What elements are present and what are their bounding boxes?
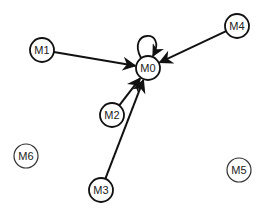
node-m1: M1	[30, 38, 54, 62]
node-m3: M3	[89, 178, 113, 202]
node-m5: M5	[227, 158, 251, 182]
node-label: M2	[104, 109, 119, 121]
edge-m2-to-m0	[119, 78, 140, 105]
node-label: M3	[93, 184, 108, 196]
node-label: M5	[231, 164, 246, 176]
node-label: M6	[18, 150, 33, 162]
edge-m4-to-m0	[160, 31, 226, 62]
node-label: M4	[229, 20, 244, 32]
node-m6: M6	[14, 144, 38, 168]
node-m0: M0	[136, 56, 160, 80]
edge-m0-self-loop	[138, 36, 157, 58]
edge-m1-to-m0	[54, 52, 135, 66]
node-m4: M4	[225, 14, 249, 38]
node-label: M1	[34, 44, 49, 56]
edge-m3-to-m0	[105, 80, 143, 179]
node-label: M0	[140, 62, 155, 74]
edges-layer	[54, 31, 226, 179]
node-m2: M2	[100, 103, 124, 127]
directed-graph: M0M1M2M3M4M5M6	[0, 0, 271, 217]
